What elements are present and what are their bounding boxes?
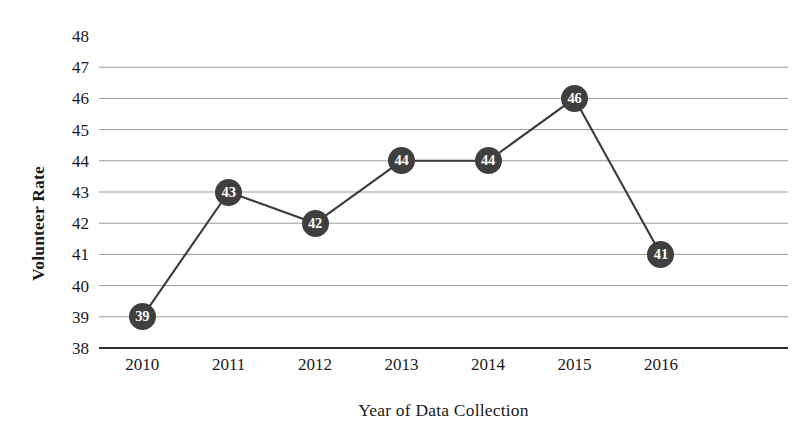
x-axis-tick-label: 2013 — [362, 356, 442, 375]
data-point-label: 43 — [222, 184, 236, 201]
x-axis-tick-labels: 2010201120122013201420152016 — [0, 356, 810, 382]
data-point-marker: 46 — [561, 85, 588, 112]
data-point-marker: 39 — [129, 303, 156, 330]
data-point-label: 44 — [395, 152, 409, 169]
x-axis-title: Year of Data Collection — [99, 400, 788, 421]
data-point-label: 44 — [481, 152, 495, 169]
line-chart: Volunteer Rate 4847464544434241403938 39… — [0, 0, 810, 447]
data-point-marker: 43 — [215, 179, 242, 206]
x-axis-tick-label: 2016 — [621, 356, 701, 375]
data-point-marker: 42 — [302, 210, 329, 237]
x-axis-tick-label: 2010 — [102, 356, 182, 375]
data-point-label: 42 — [308, 215, 322, 232]
data-point-marker: 44 — [475, 147, 502, 174]
x-axis-tick-label: 2012 — [275, 356, 355, 375]
data-point-marker: 41 — [647, 241, 674, 268]
data-point-label: 39 — [135, 308, 149, 325]
data-point-label: 41 — [654, 246, 668, 263]
data-point-marker: 44 — [388, 147, 415, 174]
x-axis-tick-label: 2015 — [534, 356, 614, 375]
x-axis-tick-label: 2011 — [189, 356, 269, 375]
data-point-label: 46 — [567, 90, 581, 107]
x-axis-tick-label: 2014 — [448, 356, 528, 375]
